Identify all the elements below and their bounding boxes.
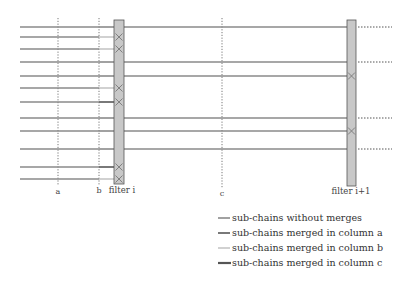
- column-label-a: a: [56, 187, 61, 196]
- labels: a b c filter i filter i+1: [56, 185, 371, 198]
- filter-i1-label: filter i+1: [332, 186, 371, 196]
- column-label-b: b: [96, 186, 101, 195]
- column-guides: [58, 18, 222, 188]
- legend-label-merged-c: sub-chains merged in column c: [232, 257, 382, 268]
- column-label-c: c: [220, 189, 225, 198]
- legend: sub-chains without merges sub-chains mer…: [218, 212, 383, 268]
- filter-i1-box: [347, 20, 356, 186]
- filter-i-label: filter i: [109, 185, 136, 195]
- merge-marks: [116, 34, 356, 183]
- sub-chain-lines: [20, 27, 392, 179]
- legend-label-merged-b: sub-chains merged in column b: [232, 242, 383, 253]
- legend-label-merged-a: sub-chains merged in column a: [232, 227, 383, 238]
- merge-diagram: a b c filter i filter i+1 sub-chains wit…: [0, 0, 407, 286]
- filters: [114, 20, 356, 186]
- legend-label-without-merges: sub-chains without merges: [232, 212, 362, 223]
